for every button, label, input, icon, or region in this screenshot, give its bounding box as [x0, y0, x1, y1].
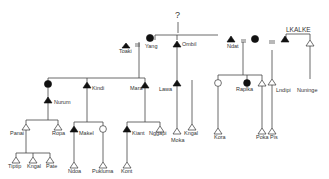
unknown-ancestor-marker: ?: [175, 10, 180, 20]
label-pate: Pate: [46, 164, 57, 170]
label-lkalke: LKALKE: [286, 27, 311, 34]
ombil-symbol: [173, 41, 181, 47]
lkalke-symbol: [281, 36, 289, 42]
makel-symbol: [70, 126, 78, 132]
nurum-mother-symbol: [44, 80, 51, 87]
label-ndat: Ndat: [227, 44, 239, 50]
label-mara: Mara: [130, 86, 143, 92]
label-nggapi: Nggapi: [149, 131, 166, 137]
lawa-symbol: [173, 80, 181, 86]
label-toaki: Toaki: [119, 49, 132, 55]
ndat-symbol: [227, 36, 235, 42]
kindi-symbol: [83, 82, 91, 88]
label-moka: Moka: [171, 138, 184, 144]
label-kont: Kont: [121, 169, 132, 175]
kiant-symbol: [123, 126, 131, 132]
label-lndipi: Lndipi: [276, 88, 291, 94]
label-poka: Poka: [256, 135, 269, 141]
label-kngal-2: Kngal: [27, 164, 41, 170]
label-kngal: Kngal: [184, 131, 198, 137]
label-ropa: Ropa: [52, 131, 65, 137]
ndat-wife-symbol: [251, 35, 258, 42]
label-kora: Kora: [214, 135, 226, 141]
label-pis: Pis: [270, 135, 278, 141]
label-raplka: Raplka: [236, 87, 253, 93]
yang-symbol: [146, 34, 153, 41]
label-panai: Panai: [10, 131, 24, 137]
label-pukluma: Pukluma: [92, 169, 113, 175]
label-nurum: Nurum: [54, 100, 71, 106]
label-kindi: Kindi: [92, 86, 104, 92]
label-kiant: Kiant: [132, 131, 145, 137]
label-lawa: Lawa: [159, 87, 172, 93]
label-nuninge: Nuninge: [297, 88, 318, 94]
label-makel: Makel: [79, 131, 94, 137]
label-ombil: Ombil: [182, 42, 196, 48]
label-tiptip: Tiptip: [8, 164, 21, 170]
label-yang: Yang: [145, 44, 157, 50]
label-ndoa: Ndoa: [68, 169, 81, 175]
nurum-symbol: [44, 97, 52, 103]
